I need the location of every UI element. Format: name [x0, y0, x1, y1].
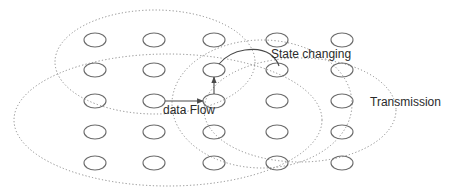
node-r5-c4 — [266, 156, 288, 170]
node-r5-c1 — [84, 156, 106, 170]
node-r2-c3 — [203, 63, 225, 77]
node-r3-c5 — [331, 94, 353, 108]
network-diagram — [0, 0, 450, 188]
node-r2-c2 — [143, 63, 165, 77]
node-r2-c1 — [84, 63, 106, 77]
node-r4-c1 — [84, 125, 106, 139]
state-changing-label: State changing — [271, 48, 351, 60]
node-r2-c4 — [266, 63, 288, 77]
node-r4-c3 — [203, 125, 225, 139]
range-right — [204, 58, 396, 162]
node-r3-c1 — [84, 94, 106, 108]
transmission-label: Transmission — [370, 96, 441, 108]
node-r1-c4 — [266, 33, 288, 47]
node-r4-c2 — [143, 125, 165, 139]
node-r4-c5 — [331, 125, 353, 139]
node-r2-c5 — [331, 63, 353, 77]
node-r3-c2 — [143, 94, 165, 108]
range-bottom-left — [14, 54, 322, 186]
node-r5-c2 — [143, 156, 165, 170]
node-r1-c3 — [203, 33, 225, 47]
state-change-arrow — [219, 49, 279, 66]
node-r1-c5 — [331, 33, 353, 47]
node-r1-c1 — [84, 33, 106, 47]
node-r1-c2 — [143, 33, 165, 47]
node-r3-c4 — [266, 94, 288, 108]
node-r5-c5 — [331, 156, 353, 170]
node-r4-c4 — [266, 125, 288, 139]
data-flow-label: data Flow — [163, 104, 215, 116]
